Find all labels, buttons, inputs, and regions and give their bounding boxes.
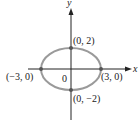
point-label-top: (0, 2) xyxy=(73,35,95,47)
origin-label: 0 xyxy=(62,73,67,84)
ellipse-diagram: x y 0 (0, 2) (−3, 0) (3, 0) (0, −2) xyxy=(0,0,140,126)
point-left xyxy=(39,67,43,71)
point-label-left: (−3, 0) xyxy=(6,71,33,83)
point-label-right: (3, 0) xyxy=(101,71,123,83)
x-axis-label: x xyxy=(132,63,138,74)
x-axis-arrow-icon xyxy=(125,67,132,72)
y-axis-label: y xyxy=(66,0,72,8)
point-label-bottom: (0, −2) xyxy=(73,93,100,105)
point-top xyxy=(69,46,73,50)
point-bottom xyxy=(69,88,73,92)
y-axis-arrow-icon xyxy=(69,8,74,15)
